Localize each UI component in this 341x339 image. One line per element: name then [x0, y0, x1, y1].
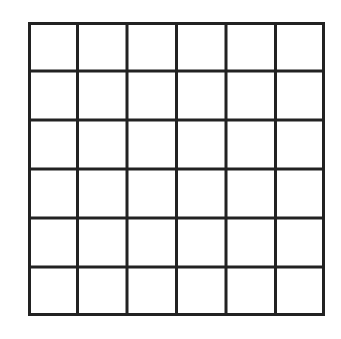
grid-cell	[226, 71, 276, 120]
grid-cell	[226, 120, 276, 169]
grid-cell	[177, 218, 227, 267]
grid-cell	[127, 218, 177, 267]
grid-cell	[177, 169, 227, 218]
grid-cell	[177, 120, 227, 169]
grid-cell	[78, 169, 128, 218]
grid-cell	[28, 267, 78, 316]
grid-cell	[127, 267, 177, 316]
grid-cell	[78, 120, 128, 169]
grid-cell	[78, 218, 128, 267]
grid-cell	[28, 218, 78, 267]
grid-cell	[127, 120, 177, 169]
grid-cell	[276, 218, 326, 267]
grid-cell	[127, 22, 177, 71]
grid-cell	[177, 22, 227, 71]
grid-cell	[28, 71, 78, 120]
grid-cell	[226, 218, 276, 267]
grid-cell	[276, 267, 326, 316]
grid-cell	[226, 267, 276, 316]
grid-cell	[276, 71, 326, 120]
grid-cell	[127, 71, 177, 120]
square-grid	[28, 22, 325, 316]
grid-cell	[28, 120, 78, 169]
grid-cell	[28, 169, 78, 218]
grid-cell	[276, 120, 326, 169]
grid-cell	[78, 71, 128, 120]
grid-cell	[177, 71, 227, 120]
grid-cell	[226, 169, 276, 218]
grid-cell	[276, 169, 326, 218]
grid-cell	[226, 22, 276, 71]
grid-cell	[78, 267, 128, 316]
grid-cell	[276, 22, 326, 71]
grid-cell	[177, 267, 227, 316]
grid-cell	[78, 22, 128, 71]
grid-cell	[127, 169, 177, 218]
grid-lines	[28, 22, 325, 316]
grid-cell	[28, 22, 78, 71]
